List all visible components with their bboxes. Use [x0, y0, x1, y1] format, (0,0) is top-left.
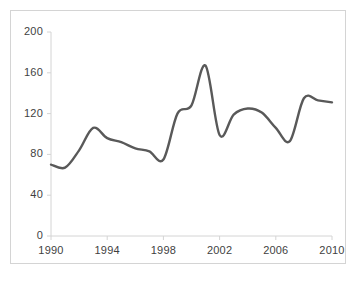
x-axis-tick-label: 2002 [200, 244, 240, 256]
x-axis-tick-label: 2010 [312, 244, 352, 256]
y-axis-tick-label: 40 [13, 188, 43, 200]
data-series-line [51, 65, 332, 168]
x-axis-tick-label: 1994 [87, 244, 127, 256]
y-axis-tick-label: 0 [13, 229, 43, 241]
x-axis-ticks [51, 236, 332, 240]
y-axis-tick-label: 120 [13, 107, 43, 119]
y-axis-tick-label: 200 [13, 25, 43, 37]
chart-frame: 04080120160200 199019941998200220062010 [10, 10, 346, 264]
y-axis-ticks [47, 32, 51, 236]
line-chart-plot [11, 11, 345, 263]
x-axis-tick-label: 2006 [256, 244, 296, 256]
x-axis-tick-label: 1998 [143, 244, 183, 256]
x-axis-tick-label: 1990 [31, 244, 71, 256]
y-axis-tick-label: 160 [13, 66, 43, 78]
y-axis-tick-label: 80 [13, 147, 43, 159]
